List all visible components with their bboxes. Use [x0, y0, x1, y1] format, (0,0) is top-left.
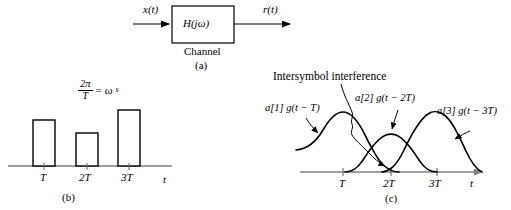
intersymbol-interference-label: Intersymbol interference: [273, 71, 386, 83]
pulse-bar-3: [118, 110, 140, 166]
input-signal-label: x(t): [143, 4, 158, 15]
frequency-omega-symbol: ω: [105, 85, 113, 96]
panel-b-tick-label-3T: 3T: [121, 172, 133, 183]
pulse-curve-3: [382, 112, 482, 172]
panel-c-tick-label-3T: 3T: [429, 178, 441, 189]
curve-1-leader-line: [306, 118, 318, 133]
panel-b-axis-label: t: [163, 174, 166, 185]
transfer-function-label: H(jω): [183, 18, 209, 29]
panel-c-caption: (c): [385, 193, 397, 204]
panel-a-caption: (a): [195, 60, 207, 71]
curve-2-leader-line: [392, 110, 398, 129]
figure-root: x(t) H(jω) r(t) Channel (a) 2π T = ωs T …: [0, 0, 511, 210]
curve-label-1: a[1] g(t − T): [265, 103, 320, 114]
curve-label-2: a[2] g(t − 2T): [355, 93, 415, 104]
output-signal-label: r(t): [263, 4, 278, 15]
sampling-frequency-equation: 2π T = ωs: [78, 79, 119, 101]
panel-c-tick-label-2T: 2T: [383, 178, 395, 189]
panel-b-tick-label-T: T: [40, 172, 46, 183]
panel-c-axis-label: t: [470, 178, 473, 189]
pulse-bar-1: [33, 120, 55, 166]
panel-b-plot: [8, 110, 172, 170]
frequency-fraction: 2π T: [78, 79, 93, 101]
pulse-bar-2: [76, 133, 98, 166]
pulse-curve-2: [345, 134, 437, 172]
panel-c-tick-label-T: T: [339, 178, 345, 189]
pulse-curve-1: [296, 112, 399, 172]
panel-b-tick-label-2T: 2T: [79, 172, 91, 183]
frequency-denominator: T: [78, 91, 93, 102]
channel-name-label: Channel: [184, 46, 221, 57]
frequency-equals-sign: =: [96, 85, 102, 96]
frequency-numerator: 2π: [78, 79, 93, 91]
curve-label-3: a[3] g(t − 3T): [437, 106, 497, 117]
panel-b-caption: (b): [62, 192, 75, 203]
frequency-omega-subscript: s: [116, 86, 119, 94]
